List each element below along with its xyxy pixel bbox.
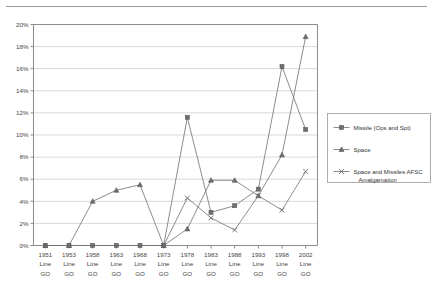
y-tick-label: 6% bbox=[20, 175, 29, 182]
x-tick-label: GO bbox=[277, 270, 287, 277]
x-tick-label: GO bbox=[254, 270, 264, 277]
line-chart: 0%2%4%6%8%10%12%14%16%18%20%1951LineGO19… bbox=[0, 0, 433, 301]
x-tick-label: GO bbox=[112, 270, 122, 277]
x-tick-label: Line bbox=[229, 260, 241, 267]
series-2 bbox=[43, 34, 308, 247]
x-tick-label: GO bbox=[159, 270, 169, 277]
x-tick-label: 1998 bbox=[275, 251, 289, 258]
x-tick-label: GO bbox=[41, 270, 51, 277]
x-tick-label: Line bbox=[110, 260, 122, 267]
y-tick-label: 20% bbox=[16, 21, 29, 28]
marker-triangle bbox=[303, 34, 308, 39]
marker-square bbox=[114, 244, 118, 248]
marker-square bbox=[138, 244, 142, 248]
x-tick-label: Line bbox=[205, 260, 217, 267]
y-tick-label: 12% bbox=[16, 109, 29, 116]
y-tick-label: 4% bbox=[20, 198, 29, 205]
marker-x bbox=[185, 196, 190, 201]
x-tick-label: Line bbox=[63, 260, 75, 267]
y-tick-label: 18% bbox=[16, 43, 29, 50]
x-tick-label: Line bbox=[300, 260, 312, 267]
legend: Missile (Ops and Spt)SpaceSpace and Miss… bbox=[328, 114, 431, 184]
x-tick-label: 1993 bbox=[251, 251, 265, 258]
x-tick-label: GO bbox=[135, 270, 145, 277]
x-tick-label: Line bbox=[134, 260, 146, 267]
marker-triangle bbox=[185, 226, 190, 231]
marker-triangle bbox=[138, 182, 143, 187]
marker-x bbox=[280, 208, 285, 213]
x-tick-label: 1983 bbox=[204, 251, 218, 258]
x-tick-label: 2002 bbox=[299, 251, 313, 258]
x-tick-label: 1953 bbox=[62, 251, 76, 258]
x-tick-label: 1968 bbox=[133, 251, 147, 258]
legend-label: Space bbox=[354, 147, 372, 153]
y-tick-label: 0% bbox=[20, 242, 29, 249]
y-tick-label: 10% bbox=[16, 131, 29, 138]
x-tick-label: GO bbox=[183, 270, 193, 277]
x-tick-label: Line bbox=[252, 260, 264, 267]
x-tick-label: 1973 bbox=[157, 251, 171, 258]
x-tick-label: Line bbox=[39, 260, 51, 267]
x-tick-label: GO bbox=[301, 270, 311, 277]
x-tick-label: Line bbox=[181, 260, 193, 267]
y-tick-label: 2% bbox=[20, 220, 29, 227]
x-ticks: 1951LineGO1953LineGO1958LineGO1963LineGO… bbox=[38, 246, 313, 277]
marker-x bbox=[303, 169, 308, 174]
x-tick-label: 1963 bbox=[109, 251, 123, 258]
x-tick-label: Line bbox=[276, 260, 288, 267]
y-tick-label: 14% bbox=[16, 87, 29, 94]
x-tick-label: Line bbox=[158, 260, 170, 267]
legend-label-second-line: Amalgamation bbox=[359, 177, 397, 183]
marker-square bbox=[233, 204, 237, 208]
marker-square bbox=[340, 126, 344, 130]
marker-triangle bbox=[280, 152, 285, 157]
x-tick-label: GO bbox=[230, 270, 240, 277]
x-tick-label: 1988 bbox=[228, 251, 242, 258]
y-tick-label: 16% bbox=[16, 65, 29, 72]
marker-square bbox=[280, 64, 284, 68]
marker-x bbox=[209, 215, 214, 220]
y-tick-label: 8% bbox=[20, 153, 29, 160]
marker-square bbox=[209, 210, 213, 214]
y-gridlines: 0%2%4%6%8%10%12%14%16%18%20% bbox=[16, 21, 317, 249]
x-tick-label: GO bbox=[88, 270, 98, 277]
marker-square bbox=[304, 127, 308, 131]
marker-square bbox=[256, 187, 260, 191]
marker-square bbox=[91, 244, 95, 248]
x-tick-label: GO bbox=[64, 270, 74, 277]
legend-label: Missile (Ops and Spt) bbox=[354, 125, 411, 131]
x-tick-label: GO bbox=[206, 270, 216, 277]
x-tick-label: 1958 bbox=[86, 251, 100, 258]
marker-square bbox=[185, 115, 189, 119]
x-tick-label: 1951 bbox=[38, 251, 52, 258]
legend-label: Space and Missiles AFSC bbox=[354, 169, 424, 175]
x-tick-label: 1978 bbox=[180, 251, 194, 258]
chart-canvas: 0%2%4%6%8%10%12%14%16%18%20%1951LineGO19… bbox=[0, 0, 433, 301]
series-line bbox=[45, 66, 305, 245]
series-line bbox=[45, 37, 305, 246]
marker-x bbox=[232, 228, 237, 233]
x-tick-label: Line bbox=[87, 260, 99, 267]
